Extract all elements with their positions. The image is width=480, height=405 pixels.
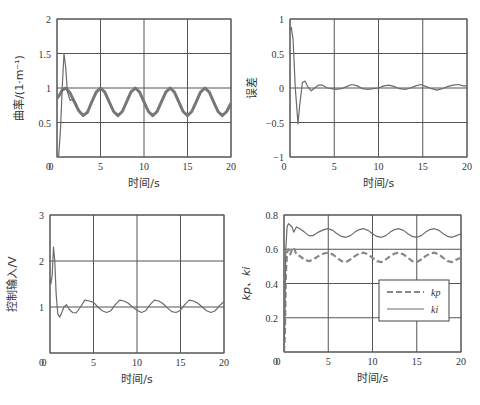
- x-tick-label: 15: [176, 357, 186, 368]
- y-tick-label: 0.5: [272, 49, 285, 60]
- legend: kpki: [379, 280, 449, 321]
- x-axis-label: 时间/s: [357, 372, 389, 385]
- y-tick-label: 0.6: [266, 244, 279, 255]
- gain-plot: 0510152000.20.40.60.8时间/skp、kikpki: [240, 210, 466, 385]
- y-tick-label: 0: [273, 356, 278, 367]
- x-axis-label: 时间/s: [363, 177, 395, 190]
- x-tick-label: 20: [219, 357, 229, 368]
- y-tick-label: 1: [46, 83, 51, 94]
- control-input-plot: 051015200123时间/s控制输入/V: [5, 210, 229, 386]
- x-tick-label: 5: [332, 161, 337, 172]
- x-tick-label: 15: [412, 356, 422, 367]
- y-axis-label: 误差: [245, 77, 259, 99]
- x-tick-label: 10: [132, 357, 142, 368]
- x-tick-label: 10: [368, 356, 378, 367]
- y-tick-label: 0: [39, 357, 44, 368]
- x-axis-label: 时间/s: [128, 177, 160, 190]
- y-axis-label: kp、ki: [240, 267, 253, 301]
- y-tick-label: 0: [46, 161, 51, 172]
- x-tick-label: 15: [183, 161, 193, 172]
- y-tick-label: 0.4: [266, 279, 279, 290]
- x-tick-label: 5: [98, 161, 103, 172]
- legend-label-kp: kp: [431, 287, 440, 298]
- figure: 0510152000.511.52时间/s曲率/(1·m⁻¹) 05101520…: [0, 0, 480, 405]
- y-tick-label: 3: [39, 210, 44, 221]
- y-tick-label: −0.5: [266, 118, 284, 129]
- x-tick-label: 5: [326, 356, 331, 367]
- error-plot: 05101520−1−0.500.51时间/s误差: [245, 14, 472, 190]
- x-tick-label: 20: [456, 356, 466, 367]
- x-tick-label: 20: [226, 161, 236, 172]
- y-tick-label: −1: [273, 152, 284, 163]
- y-tick-label: 2: [46, 14, 51, 25]
- y-axis-label: 曲率/(1·m⁻¹): [12, 55, 26, 121]
- response-line: [57, 54, 77, 158]
- y-tick-label: 0.8: [266, 210, 279, 221]
- curvature-plot: 0510152000.511.52时间/s曲率/(1·m⁻¹): [12, 14, 236, 190]
- x-axis-label: 时间/s: [121, 373, 153, 386]
- y-tick-label: 2: [39, 256, 44, 267]
- legend-label-ki: ki: [431, 304, 438, 315]
- y-tick-label: 1: [39, 302, 44, 313]
- y-tick-label: 0: [279, 83, 284, 94]
- y-axis-label: 控制输入/V: [5, 256, 19, 312]
- x-tick-label: 10: [374, 161, 384, 172]
- y-tick-label: 0.2: [266, 313, 279, 324]
- x-tick-label: 20: [462, 161, 472, 172]
- y-tick-label: 1.5: [39, 49, 52, 60]
- x-tick-label: 15: [418, 161, 428, 172]
- y-tick-label: 0.5: [39, 118, 52, 129]
- x-tick-label: 10: [139, 161, 149, 172]
- x-tick-label: 5: [91, 357, 96, 368]
- y-tick-label: 1: [279, 14, 284, 25]
